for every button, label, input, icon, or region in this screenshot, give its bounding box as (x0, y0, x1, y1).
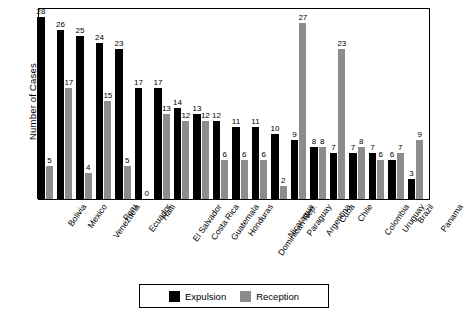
bar-group: 76 (369, 9, 385, 199)
bar-value-label: 25 (72, 26, 88, 35)
bar-value-label: 27 (295, 13, 311, 22)
bar-value-label: 2 (275, 176, 291, 185)
bar-value-label: 10 (267, 124, 283, 133)
bars-layer: 2852617254241523517017131412131212611611… (39, 9, 429, 199)
bar-expulsion (174, 108, 181, 199)
x-axis-tick-label: Chile (356, 202, 375, 224)
legend-item-reception: Reception (240, 291, 299, 302)
legend-label-reception: Reception (256, 291, 299, 302)
bar-group: 2415 (96, 9, 112, 199)
bar-group: 1713 (154, 9, 170, 199)
bar-expulsion (115, 49, 122, 199)
bar-value-label: 5 (41, 156, 57, 165)
bar-value-label: 23 (111, 39, 127, 48)
x-axis-tick-label: Panama (439, 202, 465, 234)
bar-expulsion (37, 17, 44, 199)
bar-value-label: 5 (119, 156, 135, 165)
bar-group: 116 (252, 9, 268, 199)
bar-reception (338, 49, 345, 199)
bar-value-label: 6 (236, 150, 252, 159)
bar-group: 102 (271, 9, 287, 199)
bar-value-label: 6 (217, 150, 233, 159)
bar-value-label: 17 (130, 78, 146, 87)
bar-reception (163, 114, 170, 199)
bar-group: 235 (115, 9, 131, 199)
bar-reception (85, 173, 92, 199)
x-axis-tick-label: Mexico (86, 202, 110, 230)
bar-value-label: 17 (150, 78, 166, 87)
bar-value-label: 11 (247, 117, 263, 126)
y-axis-title: Number of Cases (27, 22, 38, 182)
legend-swatch-expulsion-icon (169, 291, 180, 302)
bar-expulsion (252, 127, 259, 199)
legend-swatch-reception-icon (240, 291, 251, 302)
bar-group: 285 (37, 9, 53, 199)
bar-value-label: 6 (256, 150, 272, 159)
bar-expulsion (213, 121, 220, 199)
bar-reception (124, 166, 131, 199)
bar-reception (46, 166, 53, 199)
bar-reception (416, 140, 423, 199)
bar-value-label: 0 (139, 189, 155, 198)
bar-reception (104, 101, 111, 199)
bar-expulsion (330, 153, 337, 199)
bar-group: 1312 (193, 9, 209, 199)
x-axis-tick-label: Cuba (336, 202, 356, 224)
legend-label-expulsion: Expulsion (185, 291, 226, 302)
bar-reception (221, 160, 228, 199)
bar-group: 67 (388, 9, 404, 199)
bar-value-label: 14 (169, 98, 185, 107)
bar-group: 88 (310, 9, 326, 199)
bar-value-label: 24 (91, 33, 107, 42)
bar-group: 723 (330, 9, 346, 199)
x-axis-tick-labels: BoliviaMexicoVenezuelaPeruEcuadorHaitiEl… (38, 202, 430, 280)
bar-value-label: 9 (412, 130, 428, 139)
bar-expulsion (193, 114, 200, 199)
bar-reception (260, 160, 267, 199)
bar-value-label: 12 (208, 111, 224, 120)
plot-area: 2852617254241523517017131412131212611611… (38, 8, 430, 200)
bar-value-label: 26 (52, 20, 68, 29)
bar-group: 254 (76, 9, 92, 199)
bar-value-label: 15 (100, 91, 116, 100)
bar-reception (319, 147, 326, 199)
bar-value-label: 7 (392, 143, 408, 152)
bar-group: 39 (408, 9, 424, 199)
bar-expulsion (408, 179, 415, 199)
bar-reception (377, 160, 384, 199)
bar-reception (299, 23, 306, 199)
bar-group: 170 (135, 9, 151, 199)
bar-expulsion (76, 36, 83, 199)
bar-reception (280, 186, 287, 199)
legend-item-expulsion: Expulsion (169, 291, 226, 302)
bar-group: 126 (213, 9, 229, 199)
bar-expulsion (349, 153, 356, 199)
bar-expulsion (291, 140, 298, 199)
bar-expulsion (232, 127, 239, 199)
bar-expulsion (271, 134, 278, 199)
bar-expulsion (310, 147, 317, 199)
bar-value-label: 11 (228, 117, 244, 126)
bar-expulsion (135, 88, 142, 199)
bar-expulsion (388, 160, 395, 199)
bar-reception (358, 147, 365, 199)
bar-reception (241, 160, 248, 199)
bar-group: 78 (349, 9, 365, 199)
bar-expulsion (369, 153, 376, 199)
bar-group: 927 (291, 9, 307, 199)
bar-group: 1412 (174, 9, 190, 199)
bar-reception (202, 121, 209, 199)
bar-value-label: 17 (61, 78, 77, 87)
bar-group: 2617 (57, 9, 73, 199)
bar-reception (182, 121, 189, 199)
bar-expulsion (57, 30, 64, 199)
bar-group: 116 (232, 9, 248, 199)
bar-value-label: 23 (334, 39, 350, 48)
legend: Expulsion Reception (139, 284, 329, 308)
bar-value-label: 4 (80, 163, 96, 172)
bar-expulsion (96, 43, 103, 199)
x-axis-tick-label: Bolivia (65, 202, 88, 228)
bar-value-label: 28 (33, 7, 49, 16)
bar-reception (65, 88, 72, 199)
